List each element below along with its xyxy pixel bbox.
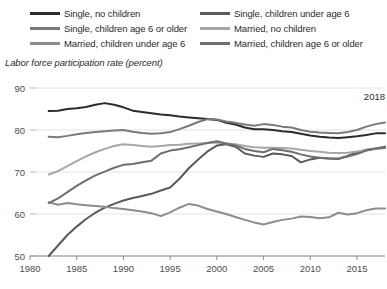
chart-annotation-year: 2018 [364, 91, 385, 102]
x-axis-tick-label: 1990 [113, 263, 134, 274]
legend-item-married-children-age-6-or-older: Married, children age 6 or older [200, 36, 363, 51]
chart-svg: 5060708090198019851990199520002005201020… [0, 70, 387, 289]
y-axis-tick-label: 80 [14, 125, 25, 136]
series-line-married-children-under-age-6 [49, 202, 385, 224]
series-line-single-children-under-age-6 [49, 144, 385, 256]
x-axis-tick-label: 1995 [160, 263, 181, 274]
y-axis-tick-label: 70 [14, 167, 25, 178]
chart-root: Single, no children Single, children age… [0, 0, 387, 289]
chart-legend: Single, no children Single, children age… [0, 0, 387, 55]
x-axis-tick-label: 1980 [19, 263, 40, 274]
legend-swatch-icon [200, 12, 230, 15]
legend-column-left: Single, no children Single, children age… [30, 6, 187, 51]
legend-item-married-no-children: Married, no children [200, 21, 363, 36]
y-axis-tick-label: 90 [14, 83, 25, 94]
legend-item-single-no-children: Single, no children [30, 6, 187, 21]
plot-area: 5060708090198019851990199520002005201020… [0, 70, 387, 289]
y-axis-tick-label: 60 [14, 209, 25, 220]
legend-item-single-children-under-age-6: Single, children under age 6 [200, 6, 363, 21]
legend-item-married-children-under-age-6: Married, children under age 6 [30, 36, 187, 51]
x-axis-tick-label: 2005 [253, 263, 274, 274]
legend-item-label: Single, no children [64, 8, 140, 19]
series-line-single-children-age-6-or-older [49, 119, 385, 137]
legend-item-label: Single, children age 6 or older [64, 23, 187, 34]
legend-swatch-icon [30, 12, 60, 15]
legend-swatch-icon [200, 42, 230, 45]
x-axis-tick-label: 2015 [346, 263, 367, 274]
y-axis-title: Labor force participation rate (percent) [5, 57, 163, 68]
x-axis-tick-label: 1985 [66, 263, 87, 274]
legend-item-single-children-age-6-or-older: Single, children age 6 or older [30, 21, 187, 36]
x-axis-tick-label: 2010 [300, 263, 321, 274]
legend-swatch-icon [30, 27, 60, 30]
legend-column-right: Single, children under age 6 Married, no… [200, 6, 363, 51]
y-axis-tick-label: 50 [14, 251, 25, 262]
legend-swatch-icon [30, 42, 60, 45]
x-axis-tick-label: 2000 [206, 263, 227, 274]
legend-item-label: Married, children age 6 or older [234, 38, 363, 49]
legend-swatch-icon [200, 27, 230, 30]
legend-item-label: Single, children under age 6 [234, 8, 350, 19]
legend-item-label: Married, children under age 6 [64, 38, 185, 49]
legend-item-label: Married, no children [234, 23, 316, 34]
